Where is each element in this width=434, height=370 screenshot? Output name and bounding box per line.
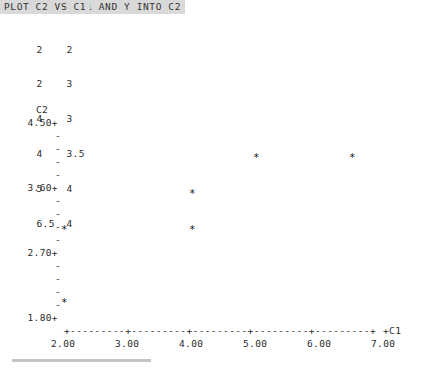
y-axis-label: C2 <box>36 105 48 115</box>
bottom-divider <box>12 359 151 362</box>
cell-x: 2 <box>36 78 66 90</box>
y-tick-minor: - <box>55 274 61 284</box>
x-tick-label: 4.00 <box>179 339 203 349</box>
y-tick-minor: - <box>55 261 61 271</box>
y-tick-minor: - <box>55 144 61 154</box>
x-tick-label: 5.00 <box>243 339 267 349</box>
data-point-marker: * <box>349 153 356 163</box>
ascii-scatter-plot: C2 4.50+----3.60+----2.70+----1.80+ ****… <box>0 120 434 350</box>
command-echo-plot: PLOT C2 VS C1 <box>0 0 90 14</box>
cell-x: 2 <box>36 44 66 56</box>
y-tick-minor: - <box>55 209 61 219</box>
y-tick-major: 2.70+ <box>24 248 58 258</box>
x-axis-label: +C1 <box>383 326 401 336</box>
x-tick-label: 6.00 <box>307 339 331 349</box>
y-tick-minor: - <box>55 157 61 167</box>
y-tick-minor: - <box>55 235 61 245</box>
data-point-marker: * <box>61 298 68 308</box>
table-row: 23 <box>12 67 85 102</box>
cell-y: 2 <box>66 44 72 56</box>
y-tick-minor: - <box>55 131 61 141</box>
x-tick-label: 3.00 <box>115 339 139 349</box>
x-tick-label: 7.00 <box>371 339 395 349</box>
table-row: 22 <box>12 32 85 67</box>
data-point-marker: * <box>189 189 196 199</box>
cell-y: 3 <box>66 78 72 90</box>
y-tick-major: 1.80+ <box>24 313 58 323</box>
y-tick-minor: - <box>55 196 61 206</box>
x-axis-line: +---------+---------+---------+---------… <box>64 326 376 336</box>
x-tick-label: 2.00 <box>51 339 75 349</box>
y-tick-major: 3.60+ <box>24 183 58 193</box>
y-tick-major: 4.50+ <box>24 118 58 128</box>
data-point-marker: * <box>61 225 68 235</box>
data-point-marker: * <box>253 153 260 163</box>
data-point-marker: * <box>189 225 196 235</box>
y-tick-minor: - <box>55 170 61 180</box>
